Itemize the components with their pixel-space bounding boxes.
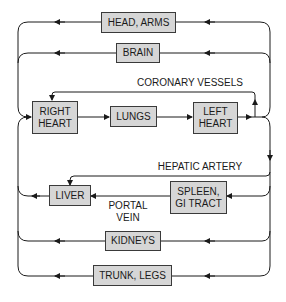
circulation-diagram: HEAD, ARMS BRAIN CORONARY VESSELS RIGHT … <box>0 0 286 302</box>
kidneys-node: KIDNEYS <box>105 231 161 251</box>
portal-vein-label: PORTAL VEIN <box>103 200 153 224</box>
coronary-vessels-label: CORONARY VESSELS <box>130 77 250 89</box>
liver-node: LIVER <box>49 185 91 206</box>
brain-node: BRAIN <box>116 43 160 63</box>
hepatic-artery-label: HEPATIC ARTERY <box>150 161 250 173</box>
left-heart-node: LEFT HEART <box>193 102 238 134</box>
right-heart-node: RIGHT HEART <box>32 101 78 134</box>
lungs-node: LUNGS <box>110 106 157 127</box>
head-arms-node: HEAD, ARMS <box>101 12 176 33</box>
spleen-gi-tract-node: SPLEEN, GI TRACT <box>170 181 227 214</box>
trunk-legs-node: TRUNK, LEGS <box>93 265 172 286</box>
